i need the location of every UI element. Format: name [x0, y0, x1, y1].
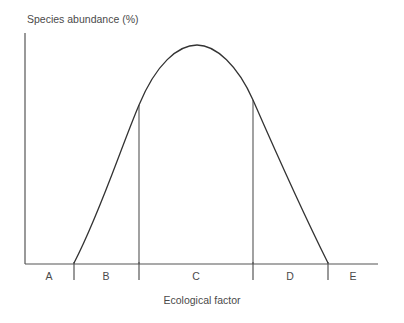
x-axis-title: Ecological factor	[0, 294, 404, 306]
zone-label-e: E	[343, 270, 363, 283]
ecological-tolerance-chart: Species abundance (%) A B C D E Ecologic…	[0, 0, 404, 323]
zone-label-c: C	[186, 270, 206, 283]
zone-label-d: D	[280, 270, 300, 283]
abundance-curve	[74, 45, 328, 263]
zone-label-a: A	[39, 270, 59, 283]
zone-label-b: B	[96, 270, 116, 283]
